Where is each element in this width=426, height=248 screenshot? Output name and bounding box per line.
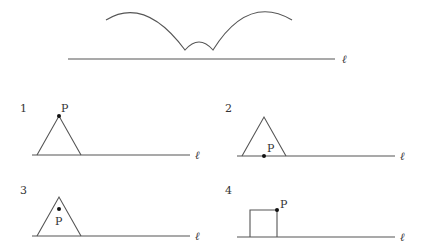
point-p <box>57 207 61 211</box>
panel-number: 2 <box>225 102 232 115</box>
square <box>250 210 277 237</box>
point-p <box>275 208 279 212</box>
panel-number: 4 <box>225 184 232 197</box>
triangle <box>242 117 286 156</box>
line-label: ℓ <box>400 150 405 163</box>
top-figure: ℓ <box>68 12 347 66</box>
line-label: ℓ <box>195 230 200 243</box>
panel-4: 4 P ℓ <box>225 184 405 244</box>
panel-2: 2 P ℓ <box>225 102 405 163</box>
point-label: P <box>55 215 63 228</box>
point-label: P <box>280 198 288 211</box>
panel-number: 1 <box>20 102 27 115</box>
diagram: ℓ 1 P ℓ 2 P ℓ 3 P ℓ 4 P ℓ <box>0 0 426 248</box>
triangle <box>37 116 81 155</box>
panel-3: 3 P ℓ <box>20 184 200 243</box>
line-label: ℓ <box>342 53 347 66</box>
line-label: ℓ <box>400 231 405 244</box>
panel-number: 3 <box>20 184 27 197</box>
point-label: P <box>267 142 275 155</box>
point-p <box>262 154 266 158</box>
point-label: P <box>61 102 69 115</box>
trajectory-arcs <box>106 12 292 50</box>
line-label: ℓ <box>195 149 200 162</box>
panel-1: 1 P ℓ <box>20 102 200 162</box>
